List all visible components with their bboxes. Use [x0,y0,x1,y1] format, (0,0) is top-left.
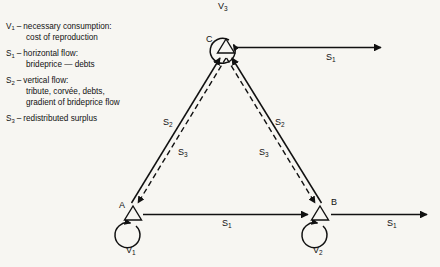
legend-symbol-s3: S3 [6,114,15,123]
node-label-c: C [206,34,213,44]
edge-label-right-s2: S2 [275,117,285,127]
edge-label-right-s3: S3 [259,147,269,157]
legend-entry-s3: S3–redistributed surplus [6,114,176,125]
legend-entry-s2-sub-2: gradient of brideprice flow [6,98,176,109]
edge-label-left-s2: S2 [163,117,173,127]
node-b-triangle [312,206,329,220]
legend-entry-s3-head: S3–redistributed surplus [6,114,176,125]
legend-entry-s1: S1–horizontal flow: brideprice — debts [6,49,176,71]
loop-label-v1: V1 [126,245,136,255]
legend-entry-s2-head: S2–vertical flow: [6,76,176,87]
legend: V1–necessary consumption: cost of reprod… [6,22,176,131]
edge-label-top-s1: S1 [326,52,336,62]
edge-label-bottom-s1: S1 [222,218,232,228]
edge-label-left-s3: S3 [178,147,188,157]
legend-entry-s2: S2–vertical flow: tribute, corvée, debts… [6,76,176,108]
legend-entry-v1: V1–necessary consumption: cost of reprod… [6,22,176,44]
edge-b-to-c-s2 [232,58,322,203]
legend-entry-v1-head: V1–necessary consumption: [6,22,176,33]
legend-entry-s2-sub-1: tribute, corvée, debts, [6,87,176,98]
legend-entry-s3-text: redistributed surplus [23,114,97,123]
loop-label-v2: V2 [313,245,323,255]
edge-label-right-s1: S1 [387,218,397,228]
loop-label-v3: V3 [218,1,228,11]
legend-entry-s1-text: horizontal flow: [23,49,78,58]
legend-entry-s2-text: vertical flow: [23,76,68,85]
node-a-triangle [125,206,142,220]
legend-entry-s1-sub-1: brideprice — debts [6,60,176,71]
legend-symbol-s1: S1 [6,49,15,58]
legend-entry-v1-sub-1: cost of reproduction [6,33,176,44]
legend-symbol-s2: S2 [6,76,15,85]
edge-c-to-b-s3 [227,58,316,203]
self-loop-a-v1 [115,223,140,248]
legend-symbol-v1: V1 [6,22,15,31]
self-loop-b-v2 [302,223,327,248]
node-c-triangle [218,39,235,53]
legend-entry-v1-text: necessary consumption: [23,22,111,31]
legend-entry-s1-head: S1–horizontal flow: [6,49,176,60]
node-label-a: A [119,200,125,210]
node-label-b: B [331,197,337,207]
diagram-page: V1–necessary consumption: cost of reprod… [0,0,440,267]
